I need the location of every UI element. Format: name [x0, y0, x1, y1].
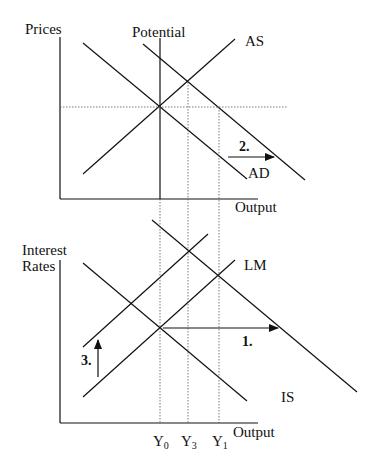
tick-y1-sub: 1 [223, 440, 228, 451]
tick-y0-sub: 0 [164, 440, 169, 451]
lm-curve-shifted [83, 234, 208, 347]
is-label: IS [281, 390, 294, 405]
arrow-2-label: 2. [239, 139, 250, 154]
tick-y0: Y0 [153, 434, 169, 453]
is-curve-shifted [152, 220, 357, 392]
tick-y3: Y3 [181, 434, 197, 453]
interest-label: Interest [22, 243, 67, 258]
ad-label: AD [248, 166, 270, 181]
potential-label: Potential [132, 25, 185, 40]
lm-label: LM [244, 258, 267, 273]
tick-y1-text: Y [212, 433, 223, 449]
arrow-1-label: 1. [242, 334, 253, 349]
tick-y1: Y1 [212, 434, 228, 453]
diagram-canvas [0, 0, 375, 472]
tick-y3-sub: 3 [192, 440, 197, 451]
arrow-3-label: 3. [81, 353, 92, 368]
output-label-top: Output [235, 200, 277, 215]
prices-label: Prices [25, 22, 62, 37]
as-label: AS [245, 34, 264, 49]
output-label-bottom: Output [233, 425, 275, 440]
tick-y0-text: Y [153, 433, 164, 449]
tick-y3-text: Y [181, 433, 192, 449]
rates-label: Rates [22, 259, 55, 274]
is-curve-initial [83, 263, 247, 401]
